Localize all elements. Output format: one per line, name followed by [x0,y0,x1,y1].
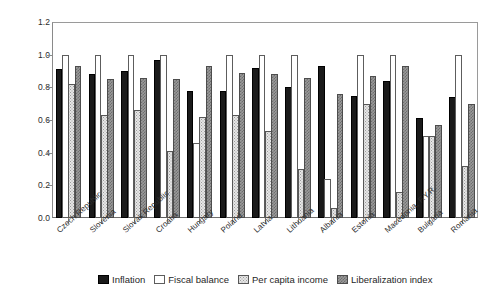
bar [107,79,114,218]
legend-swatch-icon [154,275,165,284]
y-axis-tick-label: 0.8 [0,83,50,91]
legend-swatch-icon [98,275,109,284]
legend-label: Fiscal balance [168,274,229,285]
bar-chart: 0.00.20.40.60.81.01.2 Czech RepublicSlov… [0,0,497,295]
legend-item[interactable]: Fiscal balance [154,274,229,285]
y-axis-tick-label: 0.6 [0,116,50,124]
bar [337,94,344,218]
bar-group [383,22,408,218]
y-axis-tick-label: 0.4 [0,149,50,157]
bar [435,125,442,218]
bars-layer [52,22,478,218]
bar [370,76,377,218]
bar-group [351,22,376,218]
legend-swatch-icon [238,275,249,284]
bar [304,78,311,218]
bar [468,104,475,218]
bar [75,66,82,218]
legend-label: Per capita income [252,274,328,285]
bar-group [121,22,146,218]
bar-group [252,22,277,218]
bar [173,79,180,218]
y-axis-tick-label: 0.2 [0,181,50,189]
bar [402,66,409,218]
chart-legend: InflationFiscal balancePer capita income… [98,272,441,286]
legend-swatch-icon [337,275,348,284]
y-axis-tick-label: 1.2 [0,18,50,26]
bar [140,78,147,218]
bar-group [154,22,179,218]
bar-group [220,22,245,218]
legend-label: Liberalization index [351,274,432,285]
bar-group [187,22,212,218]
legend-item[interactable]: Inflation [98,274,145,285]
bar-group [449,22,474,218]
bar-group [285,22,310,218]
bar [206,66,213,218]
bar-group [318,22,343,218]
bar-group [56,22,81,218]
legend-item[interactable]: Liberalization index [337,274,432,285]
bar-group [89,22,114,218]
y-axis-tick-label: 1.0 [0,51,50,59]
bar [271,74,278,218]
legend-item[interactable]: Per capita income [238,274,328,285]
legend-label: Inflation [112,274,145,285]
bar [239,73,246,218]
y-axis-tick-label: 0.0 [0,214,50,222]
